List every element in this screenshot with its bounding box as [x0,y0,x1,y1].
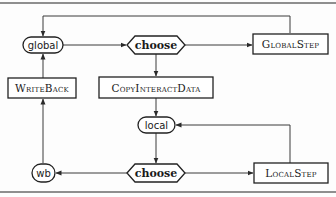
node-local-step: LocalStep [254,163,328,183]
node-global: global [23,37,63,53]
node-write-back-label: WriteBack [15,82,69,94]
node-global-label: global [28,40,59,51]
node-choose-top: choose [127,36,185,54]
node-local: local [138,117,175,133]
node-local-label: local [145,120,168,131]
node-global-step-label: GlobalStep [262,38,319,50]
node-wb-label: wb [36,168,51,179]
flowchart-diagram: global choose GlobalStep WriteBack CopyI… [0,0,336,197]
node-choose-bottom: choose [127,164,185,182]
node-local-step-label: LocalStep [265,167,316,179]
node-write-back: WriteBack [8,78,76,98]
node-wb: wb [32,164,55,182]
edge-localstep-to-local [176,125,290,163]
node-choose-top-label: choose [135,39,178,52]
node-choose-bottom-label: choose [135,167,178,180]
edge-globalstep-to-global [43,16,290,36]
node-copy-interact-data: CopyInteractData [99,77,213,98]
node-global-step: GlobalStep [253,34,328,54]
node-copy-interact-data-label: CopyInteractData [111,82,201,94]
